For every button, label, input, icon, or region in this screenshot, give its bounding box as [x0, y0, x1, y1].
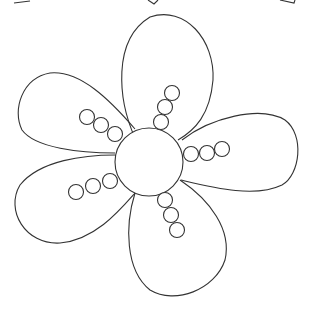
beads-bottom-left-petal	[69, 174, 118, 200]
beads-bottom-petal	[158, 193, 185, 238]
beads-top-petal	[154, 86, 180, 130]
beads-left-petal	[80, 110, 123, 142]
top-edge-fragments	[14, 0, 295, 4]
flower-drawing	[0, 0, 311, 312]
flower-center	[115, 128, 183, 196]
beads-right-petal	[184, 142, 230, 162]
